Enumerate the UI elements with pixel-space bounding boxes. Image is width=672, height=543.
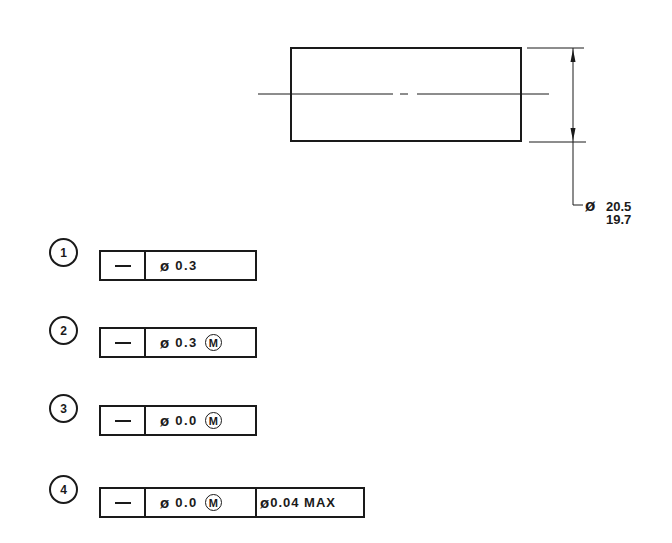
diameter-symbol-icon: ø xyxy=(160,412,169,429)
feature-control-frame-3: ø 0.0 M xyxy=(99,405,257,436)
callout-number-3: 3 xyxy=(49,394,78,423)
tolerance-value: 0.3 xyxy=(175,335,198,350)
mmc-modifier-icon: M xyxy=(205,334,222,351)
feature-control-frame-1: ø 0.3 xyxy=(99,250,257,281)
diameter-symbol-icon: ø xyxy=(160,257,169,274)
tolerance-value: 0.0 xyxy=(175,495,198,510)
tolerance-value: 0.3 xyxy=(175,258,198,273)
straightness-symbol-cell xyxy=(101,489,144,516)
diameter-symbol-icon: ø xyxy=(160,334,169,351)
callout-label: 2 xyxy=(60,324,67,338)
callout-number-4: 4 xyxy=(49,475,78,504)
tolerance-value: 0.0 xyxy=(175,413,198,428)
tolerance-cell: ø 0.0 M xyxy=(144,489,255,516)
callout-label: 3 xyxy=(60,402,67,416)
tolerance-cell: ø 0.3 xyxy=(144,252,255,279)
mmc-modifier-icon: M xyxy=(205,494,222,511)
feature-control-frame-4: ø 0.0 M ø 0.04 MAX xyxy=(99,487,365,518)
straightness-icon xyxy=(115,420,131,422)
callout-number-1: 1 xyxy=(49,238,78,267)
callout-label: 1 xyxy=(60,246,67,260)
callout-number-2: 2 xyxy=(49,316,78,345)
callout-label: 4 xyxy=(60,483,67,497)
arrowhead-bottom-icon xyxy=(571,128,576,141)
max-limit-cell: ø 0.04 MAX xyxy=(255,489,363,516)
diameter-symbol-icon: ø xyxy=(260,494,269,511)
dimension-lower-limit: 19.7 xyxy=(606,213,631,226)
tolerance-cell: ø 0.0 M xyxy=(144,407,255,434)
straightness-symbol-cell xyxy=(101,252,144,279)
straightness-icon xyxy=(115,502,131,504)
arrowhead-top-icon xyxy=(571,49,576,62)
feature-control-frame-2: ø 0.3 M xyxy=(99,327,257,358)
max-limit-value: 0.04 MAX xyxy=(270,495,336,510)
straightness-icon xyxy=(115,265,131,267)
diameter-symbol-icon: ø xyxy=(160,494,169,511)
straightness-symbol-cell xyxy=(101,407,144,434)
straightness-symbol-cell xyxy=(101,329,144,356)
tolerance-cell: ø 0.3 M xyxy=(144,329,255,356)
mmc-modifier-icon: M xyxy=(205,412,222,429)
straightness-icon xyxy=(115,342,131,344)
diameter-symbol-icon: ø xyxy=(585,196,595,216)
